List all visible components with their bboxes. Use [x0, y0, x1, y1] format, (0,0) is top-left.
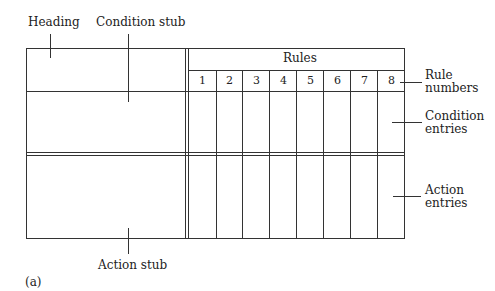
col-line — [242, 70, 243, 239]
col-line — [323, 70, 324, 239]
rule-number: 1 — [189, 74, 216, 87]
stub-divider-a — [185, 48, 186, 239]
figure-tag: (a) — [25, 276, 42, 289]
action-stub-leader — [128, 228, 129, 254]
condition-stub-label: Condition stub — [96, 16, 185, 29]
rule-number: 7 — [351, 74, 378, 87]
condition-entries-leader — [392, 122, 422, 123]
rules-title: Rules — [283, 52, 317, 65]
heading-leader — [50, 34, 51, 58]
rule-numbers-label: Rule numbers — [425, 69, 479, 95]
condition-entries-line2: entries — [425, 123, 484, 136]
condition-entries-label: Condition entries — [425, 110, 484, 136]
box-left — [26, 48, 27, 239]
heading-label: Heading — [28, 16, 80, 29]
rule-number: 3 — [243, 74, 270, 87]
col-line — [216, 70, 217, 239]
rule-numbers-line2: numbers — [425, 82, 479, 95]
action-entries-label: Action entries — [425, 184, 468, 210]
rule-numbers-leader — [400, 82, 422, 83]
action-entries-leader — [393, 196, 421, 197]
rule-number: 2 — [216, 74, 243, 87]
rule-number: 6 — [324, 74, 351, 87]
action-stub-label: Action stub — [98, 259, 167, 272]
col-line — [269, 70, 270, 239]
box-top — [26, 48, 405, 49]
rule-number: 8 — [378, 74, 405, 87]
condition-stub-leader — [128, 34, 129, 102]
action-entries-line2: entries — [425, 197, 468, 210]
col-line — [350, 70, 351, 239]
col-line — [296, 70, 297, 239]
rule-number: 4 — [270, 74, 297, 87]
rule-number: 5 — [297, 74, 324, 87]
col-line — [377, 70, 378, 239]
